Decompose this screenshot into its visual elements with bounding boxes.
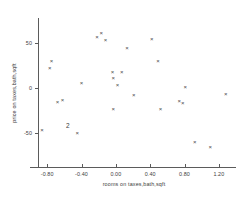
data-point-marker: ×	[208, 144, 212, 150]
data-point-marker: ×	[132, 92, 136, 98]
x-tick-label: -0.80	[41, 171, 54, 177]
data-point-marker: ×	[159, 106, 163, 112]
x-tick-label: 0.00	[110, 171, 121, 177]
data-point-marker: ×	[125, 45, 129, 51]
data-point-marker: ×	[111, 69, 115, 75]
x-tick-mark	[150, 164, 151, 168]
x-tick-mark	[219, 164, 220, 168]
data-point-marker: ×	[150, 36, 154, 42]
data-point-marker: ×	[48, 65, 52, 71]
data-point-marker: ×	[104, 37, 108, 43]
x-tick-label: 0.40	[145, 171, 156, 177]
data-point-marker: ×	[193, 139, 197, 145]
data-point-marker: ×	[116, 82, 120, 88]
data-point-marker: ×	[181, 100, 185, 106]
y-tick-mark	[35, 133, 39, 134]
x-tick-label: -0.40	[75, 171, 88, 177]
data-point-marker: ×	[111, 75, 115, 81]
y-tick-mark	[35, 43, 39, 44]
data-point-marker: ×	[99, 30, 103, 36]
x-axis-label: rooms on taxes,bath,sqft	[103, 181, 166, 187]
data-point-marker: ×	[56, 99, 60, 105]
y-tick-label: -50	[24, 130, 32, 136]
y-axis-label: price on taxes,bath,sqft	[11, 63, 17, 122]
data-point-marker: ×	[61, 97, 65, 103]
x-tick-mark	[116, 164, 117, 168]
data-point-marker: ×	[120, 69, 124, 75]
data-point-marker: ×	[184, 84, 188, 90]
x-tick-label: 0.80	[179, 171, 190, 177]
data-point-marker: ×	[95, 34, 99, 40]
data-point-marker: ×	[224, 91, 228, 97]
x-tick-mark	[82, 164, 83, 168]
scatter-plot: -0.80-0.400.000.400.801.20 500-50 ×××××2…	[0, 0, 252, 198]
data-point-marker: ×	[156, 58, 160, 64]
data-point-marker: ×	[80, 80, 84, 86]
y-tick-label: 0	[29, 85, 32, 91]
data-point-marker: ×	[40, 127, 44, 133]
y-axis-line	[38, 18, 39, 168]
data-point-marker: ×	[75, 130, 79, 136]
x-tick-label: 1.20	[213, 171, 224, 177]
overplot-count-label: 2	[66, 123, 70, 129]
data-point-marker: ×	[50, 58, 54, 64]
x-tick-mark	[185, 164, 186, 168]
y-tick-label: 50	[26, 40, 32, 46]
x-tick-mark	[47, 164, 48, 168]
data-point-marker: ×	[111, 106, 115, 112]
x-axis-line	[30, 167, 236, 168]
y-tick-mark	[35, 88, 39, 89]
